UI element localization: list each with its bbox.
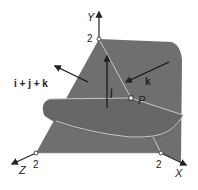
z-tick-label: 2 <box>33 159 39 170</box>
j-vector-label: j <box>109 87 113 98</box>
y-tick-label: 2 <box>87 33 93 44</box>
x-tick-label: 2 <box>156 159 162 170</box>
k-vector-label: k <box>145 76 151 87</box>
point-p-label: P <box>138 94 146 106</box>
point-p-marker <box>129 96 133 100</box>
z-axis-label: Z <box>18 164 27 176</box>
x-axis-label: X <box>174 167 183 179</box>
x-intercept-point <box>159 151 163 155</box>
y-axis-label: Y <box>87 11 95 23</box>
z-intercept-point <box>34 151 38 155</box>
y-intercept-point <box>97 37 101 41</box>
normal-vector-label: i + j + k <box>14 78 48 89</box>
surface-intersection-diagram: Y 2 Z 2 2 X P i + j + k j k <box>0 0 198 190</box>
